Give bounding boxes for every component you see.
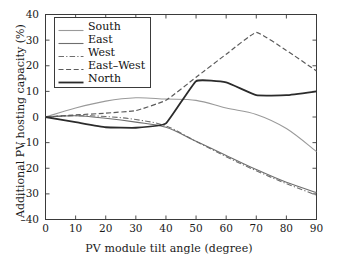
series-line-west	[46, 116, 317, 195]
y-axis-title: Additional PV hosting capacity (%)	[14, 24, 27, 218]
series-line-east	[46, 116, 317, 193]
x-tick-label: 60	[211, 223, 241, 234]
legend-line-sample	[58, 60, 84, 71]
figure: 0102030405060708090 403020100–10–20–30–4…	[0, 0, 338, 267]
y-tick-label: 40	[9, 9, 39, 20]
legend-item-label: East	[88, 34, 113, 45]
x-tick-label: 30	[121, 223, 151, 234]
x-tick-label: 40	[151, 223, 181, 234]
x-tick-label: 90	[302, 223, 332, 234]
legend-item-east: East	[58, 33, 145, 46]
legend-item-south: South	[58, 20, 145, 33]
legend-item-label: North	[88, 73, 121, 84]
legend-item-label: South	[88, 21, 121, 32]
legend-item-north: North	[58, 72, 145, 85]
legend-item-west: West	[58, 46, 145, 59]
legend-item-east-west: East–West	[58, 59, 145, 72]
legend-line-sample	[58, 73, 84, 84]
legend-line-sample	[58, 34, 84, 45]
legend-line-sample	[58, 21, 84, 32]
x-tick-label: 10	[61, 223, 91, 234]
legend-item-label: East–West	[88, 60, 145, 71]
chart-legend: SouthEastWestEast–WestNorth	[54, 17, 151, 88]
x-axis-title: PV module tilt angle (degree)	[0, 242, 338, 255]
x-tick-label: 80	[271, 223, 301, 234]
x-tick-label: 20	[91, 223, 121, 234]
x-tick-label: 70	[241, 223, 271, 234]
legend-item-label: West	[88, 47, 115, 58]
legend-line-sample	[58, 47, 84, 58]
x-tick-label: 50	[181, 223, 211, 234]
